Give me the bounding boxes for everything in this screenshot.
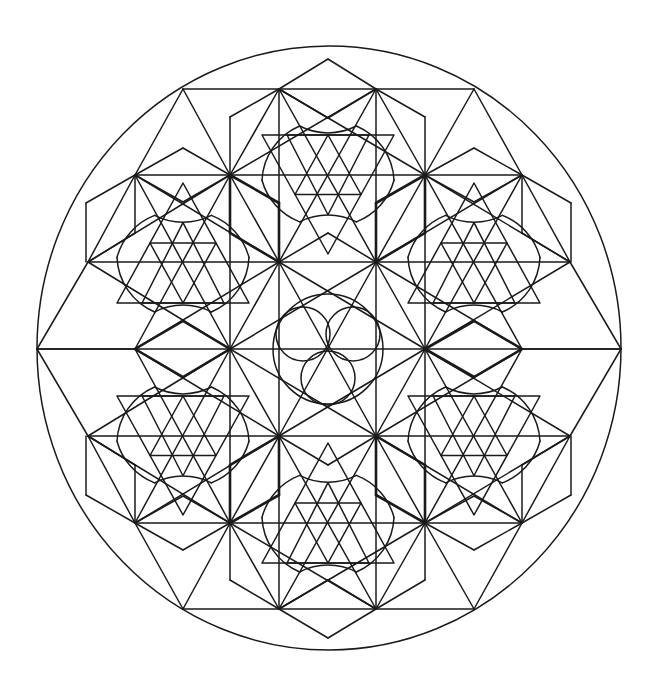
mandala-drawing: Geometric mandala line art	[0, 0, 659, 688]
mandala-svg	[0, 0, 659, 688]
